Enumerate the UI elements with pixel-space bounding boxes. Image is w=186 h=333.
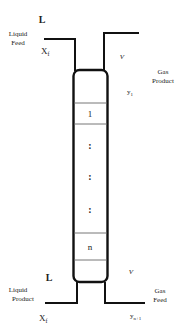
gas-product-flow-symbol: V — [120, 53, 125, 61]
gas-feed-pipe — [105, 282, 145, 303]
gas-feed-name-line2: Feed — [153, 296, 167, 304]
stage-1-label: 1 — [88, 109, 93, 119]
liquid-feed-composition: Xf — [41, 46, 50, 57]
gas-feed-name-line1: Gas — [155, 287, 166, 295]
gas-feed-composition: yn+1 — [130, 312, 142, 321]
liquid-feed-flow-symbol: L — [39, 14, 46, 25]
liquid-feed-name-line1: Liquid — [9, 30, 28, 38]
gas-product-name-line1: Gas — [158, 68, 169, 76]
gas-product-pipe — [104, 33, 139, 71]
stage-n-label: n — [88, 242, 93, 252]
gas-product-name-line2: Product — [152, 77, 174, 85]
liquid-product-name-line2: Product — [12, 295, 34, 303]
liquid-product-name-line1: Liquid — [9, 286, 28, 294]
absorption-column-diagram: 1 : : : n L Liquid Feed Xf V Gas Product… — [0, 0, 186, 333]
liquid-feed-name-line2: Feed — [11, 39, 25, 47]
gas-feed-flow-symbol: V — [129, 268, 134, 276]
stage-ellipsis-2: : — [88, 171, 91, 182]
liquid-product-pipe — [45, 282, 77, 303]
stage-ellipsis-1: : — [88, 140, 91, 151]
liquid-product-composition: Xf — [39, 313, 48, 324]
liquid-product-flow-symbol: L — [46, 272, 53, 283]
gas-product-composition: y1 — [127, 88, 134, 97]
stage-ellipsis-3: : — [88, 204, 91, 215]
